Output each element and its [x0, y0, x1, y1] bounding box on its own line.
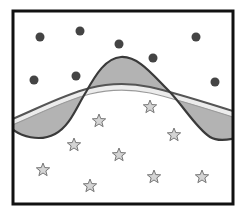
classification-diagram	[0, 0, 247, 216]
circle-point	[36, 33, 45, 42]
circle-point	[149, 54, 158, 63]
circle-point	[72, 72, 81, 81]
circle-point	[211, 78, 220, 87]
circle-point	[76, 27, 85, 36]
circle-point	[115, 40, 124, 49]
circle-point	[192, 33, 201, 42]
circle-point	[30, 76, 39, 85]
